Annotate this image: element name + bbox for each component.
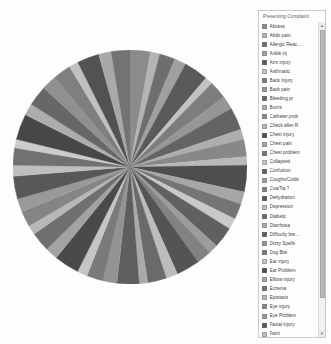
legend-swatch bbox=[262, 42, 267, 47]
legend-item[interactable]: Faint bbox=[262, 330, 321, 337]
legend-item[interactable]: Difficulty bre... bbox=[262, 230, 321, 239]
legend-item[interactable]: Ear Problem bbox=[262, 266, 321, 275]
legend-item[interactable]: Abcess bbox=[262, 22, 321, 31]
legend-swatch bbox=[262, 60, 267, 65]
legend-item-label: Back Injury bbox=[270, 78, 293, 84]
legend-item[interactable]: Confusion bbox=[262, 167, 321, 176]
legend-item[interactable]: Diarrhoea bbox=[262, 221, 321, 230]
legend-swatch bbox=[262, 69, 267, 74]
legend-item[interactable]: Burns bbox=[262, 103, 321, 112]
legend-swatch bbox=[262, 277, 267, 282]
legend-item-label: Confusion bbox=[270, 168, 291, 174]
legend-item[interactable]: Arm injury bbox=[262, 58, 321, 67]
legend-swatch bbox=[262, 286, 267, 291]
legend-item-label: Faint bbox=[270, 331, 280, 337]
legend-item-label: Ear injury bbox=[270, 259, 290, 265]
legend-swatch bbox=[262, 295, 267, 300]
legend-swatch bbox=[262, 96, 267, 101]
legend-swatch bbox=[262, 142, 267, 147]
legend-item[interactable]: Epistaxis bbox=[262, 293, 321, 302]
legend-item-label: Eye Problem bbox=[270, 313, 297, 319]
legend-item[interactable]: Eczema bbox=[262, 284, 321, 293]
legend-item[interactable]: Elbow injury bbox=[262, 275, 321, 284]
legend-item-label: Facial injury bbox=[270, 322, 295, 328]
legend-item[interactable]: Dehydration bbox=[262, 194, 321, 203]
legend-swatch bbox=[262, 151, 267, 156]
legend-swatch bbox=[262, 332, 267, 337]
legend-item-label: Coughs/Colds bbox=[270, 177, 299, 183]
legend-item[interactable]: Dizzy Spells bbox=[262, 239, 321, 248]
legend-item-label: Chest injury bbox=[270, 132, 295, 138]
scrollbar-thumb[interactable] bbox=[320, 30, 325, 298]
legend-item-label: Eczema bbox=[270, 286, 287, 292]
legend-item[interactable]: Eye Problem bbox=[262, 312, 321, 321]
legend-swatch bbox=[262, 304, 267, 309]
legend-swatch bbox=[262, 24, 267, 29]
legend-swatch bbox=[262, 232, 267, 237]
legend-item-label: Ankle inj bbox=[270, 51, 288, 57]
legend-item[interactable]: Chest problem bbox=[262, 149, 321, 158]
legend-item-label: Eye injury bbox=[270, 304, 291, 310]
legend-item-label: Diarrhoea bbox=[270, 223, 291, 229]
legend-item[interactable]: Facial injury bbox=[262, 321, 321, 330]
legend-scroll-area[interactable]: AbcessAbdo painAllergic Reac...Ankle inj… bbox=[259, 22, 325, 337]
scroll-up-arrow-icon[interactable]: ▲ bbox=[319, 22, 325, 29]
legend-item[interactable]: Chest injury bbox=[262, 131, 321, 140]
legend-item[interactable]: Back pain bbox=[262, 85, 321, 94]
legend-item[interactable]: Chest pain bbox=[262, 140, 321, 149]
legend-item-label: Elbow injury bbox=[270, 277, 295, 283]
legend-swatch bbox=[262, 105, 267, 110]
legend-swatch bbox=[262, 33, 267, 38]
legend-item-label: Cva/Tia ? bbox=[270, 186, 290, 192]
legend-swatch bbox=[262, 87, 267, 92]
legend-item[interactable]: Ear injury bbox=[262, 257, 321, 266]
legend-swatch bbox=[262, 114, 267, 119]
legend-item[interactable]: Diabetic bbox=[262, 212, 321, 221]
scroll-down-arrow-icon[interactable]: ▼ bbox=[319, 330, 325, 337]
legend-item[interactable]: Eye injury bbox=[262, 302, 321, 311]
legend-item-label: Epistaxis bbox=[270, 295, 289, 301]
legend-swatch bbox=[262, 323, 267, 328]
legend-item-label: Abdo pain bbox=[270, 33, 291, 39]
legend-swatch bbox=[262, 241, 267, 246]
legend-item[interactable]: Abdo pain bbox=[262, 31, 321, 40]
legend-item-label: Arm injury bbox=[270, 60, 291, 66]
legend-item-label: Back pain bbox=[270, 87, 291, 93]
legend-item[interactable]: Check after R. bbox=[262, 122, 321, 131]
legend-item-label: Allergic Reac... bbox=[270, 42, 302, 48]
legend-item[interactable]: Ankle inj bbox=[262, 49, 321, 58]
legend-item[interactable]: Dog Bite bbox=[262, 248, 321, 257]
legend-item-label: Ear Problem bbox=[270, 268, 296, 274]
legend-item-label: Catheter prob bbox=[270, 114, 299, 120]
legend-item[interactable]: Depression bbox=[262, 203, 321, 212]
legend-item-label: Asthmatic bbox=[270, 69, 291, 75]
legend-swatch bbox=[262, 205, 267, 210]
legend-swatch bbox=[262, 196, 267, 201]
legend-swatch bbox=[262, 314, 267, 319]
legend-item[interactable]: Catheter prob bbox=[262, 112, 321, 121]
legend-swatch bbox=[262, 223, 267, 228]
legend-item-label: Diabetic bbox=[270, 214, 287, 220]
legend-swatch bbox=[262, 169, 267, 174]
pie-chart[interactable] bbox=[13, 50, 247, 284]
legend-swatch bbox=[262, 178, 267, 183]
legend-item-label: Depression bbox=[270, 204, 294, 210]
legend-item[interactable]: Bleeding pr bbox=[262, 94, 321, 103]
legend-item-label: Abcess bbox=[270, 24, 285, 30]
legend-swatch bbox=[262, 187, 267, 192]
legend-swatch bbox=[262, 214, 267, 219]
legend-item[interactable]: Cva/Tia ? bbox=[262, 185, 321, 194]
legend-item[interactable]: Collapsed bbox=[262, 158, 321, 167]
legend-swatch bbox=[262, 78, 267, 83]
legend-item-label: Dog Bite bbox=[270, 250, 288, 256]
legend-item-label: Dehydration bbox=[270, 195, 295, 201]
legend-item[interactable]: Back Injury bbox=[262, 76, 321, 85]
legend-scrollbar[interactable]: ▲ ▼ bbox=[318, 22, 325, 337]
legend-panel[interactable]: Presenting Complaint AbcessAbdo painAlle… bbox=[258, 10, 326, 338]
legend-item[interactable]: Asthmatic bbox=[262, 67, 321, 76]
legend-item-label: Check after R. bbox=[270, 123, 300, 129]
legend-item[interactable]: Allergic Reac... bbox=[262, 40, 321, 49]
legend-item-label: Burns bbox=[270, 105, 282, 111]
legend-item[interactable]: Coughs/Colds bbox=[262, 176, 321, 185]
legend-list: AbcessAbdo painAllergic Reac...Ankle inj… bbox=[259, 22, 321, 337]
